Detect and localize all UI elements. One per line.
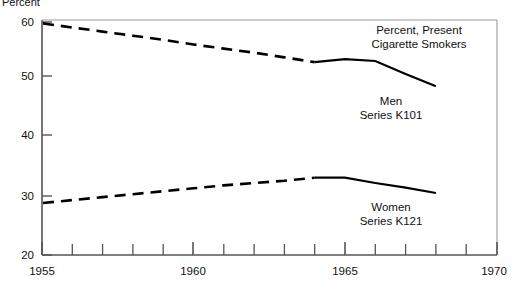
axis-lines	[42, 20, 497, 255]
y-tick-label: 40	[21, 129, 34, 141]
y-tick-label: 50	[21, 70, 34, 82]
x-tick-label: 1955	[29, 265, 55, 277]
annotation-title-line1: Percent, Present	[376, 24, 462, 36]
annotation-title-line2: Cigarette Smokers	[371, 38, 466, 50]
y-axis-tick-labels: 60 50 40 30 20	[21, 16, 34, 261]
y-tick-label: 60	[21, 16, 34, 28]
annotation-chart-title: Percent, Present Cigarette Smokers	[371, 24, 466, 50]
x-tick-label: 1960	[180, 265, 206, 277]
y-tick-label: 20	[21, 249, 34, 261]
y-axis-ticks	[42, 22, 52, 255]
x-tick-label: 1970	[481, 265, 507, 277]
chart-root: Percent 60 50 40 30 20	[0, 0, 512, 284]
series-men-solid-line	[315, 59, 436, 86]
x-axis-tick-labels: 1955 1960 1965 1970	[29, 265, 507, 277]
annotation-series-women: Women Series K121	[360, 201, 423, 227]
series-men-label: Men	[380, 95, 402, 107]
x-axis-minor-ticks	[72, 244, 466, 255]
series-men-code: Series K101	[360, 109, 423, 121]
chart-svg: 60 50 40 30 20	[0, 0, 512, 284]
series-women-code: Series K121	[360, 215, 423, 227]
series-women-solid-line	[315, 178, 436, 193]
annotation-series-men: Men Series K101	[360, 95, 423, 121]
x-tick-label: 1965	[332, 265, 358, 277]
series-women-dashed-line	[43, 178, 315, 203]
series-men-dashed-line	[43, 23, 315, 62]
x-axis-major-ticks	[42, 242, 497, 255]
y-tick-label: 30	[21, 190, 34, 202]
series-women-label: Women	[371, 201, 410, 213]
